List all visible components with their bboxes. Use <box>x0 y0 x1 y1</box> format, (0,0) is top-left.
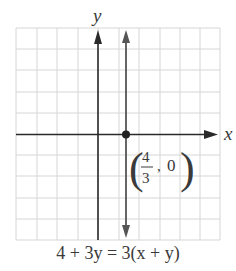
x-axis-arrow-icon <box>204 130 218 139</box>
right-paren: ) <box>180 144 195 193</box>
y-axis-arrow-icon <box>94 30 102 44</box>
equation-caption: 4 + 3y = 3(x + y) <box>56 243 179 264</box>
line-bottom-arrow-icon <box>122 225 130 238</box>
x-axis <box>16 130 218 139</box>
intercept-point <box>122 131 130 139</box>
comma: , <box>157 158 161 174</box>
y-axis-label: y <box>91 5 102 26</box>
point-y-value: 0 <box>167 156 176 175</box>
fraction-denominator: 3 <box>142 170 150 186</box>
fraction-numerator: 4 <box>142 149 150 165</box>
x-axis-label: x <box>223 123 233 144</box>
line-top-arrow-icon <box>122 30 130 43</box>
graph: y x ( 4 3 , 0 ) 4 + 3y = 3(x + y) <box>0 0 236 271</box>
point-annotation: ( 4 3 , 0 ) <box>129 144 195 193</box>
